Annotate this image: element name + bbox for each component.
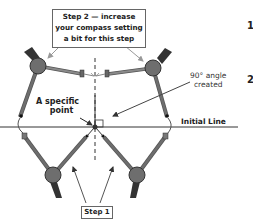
step1-arrow-left xyxy=(73,167,86,203)
compass-lower-left xyxy=(22,128,94,198)
specific-point-arrow xyxy=(80,118,92,125)
edge-number-2: 2 xyxy=(247,74,253,85)
step1-callout: Step 1 xyxy=(81,206,113,219)
compass-upper-left xyxy=(18,47,94,138)
angle-line2: created xyxy=(190,81,227,90)
step1-arrow-right xyxy=(100,167,113,203)
step1-label: Step 1 xyxy=(84,208,109,216)
specific-point-line1: A specific xyxy=(36,97,79,106)
edge-number-1: 1 xyxy=(247,20,253,31)
specific-point-line2: point xyxy=(36,106,79,115)
initial-line-label: Initial Line xyxy=(181,117,226,126)
step2-line3: a bit for this step xyxy=(53,33,145,44)
step2-line1: Step 2 — increase xyxy=(53,11,145,22)
specific-point-label: A specific point xyxy=(36,97,79,115)
step2-line2: your compass setting xyxy=(53,22,145,33)
step2-arrow-right xyxy=(125,46,143,61)
step2-callout: Step 2 — increase your compass setting a… xyxy=(52,9,146,48)
angle-label: 90° angle created xyxy=(190,72,227,89)
compass-upper-right xyxy=(96,48,172,138)
angle-arrow xyxy=(113,82,190,116)
compass-lower-right xyxy=(96,128,168,198)
